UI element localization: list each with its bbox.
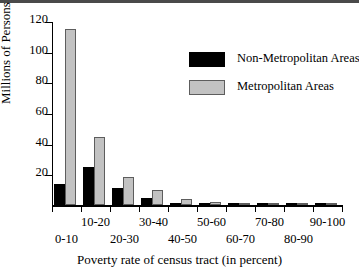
bar	[326, 203, 337, 205]
x-axis-tick-mark	[197, 205, 198, 212]
bar-group	[139, 21, 168, 205]
x-axis-tick-mark	[255, 205, 256, 212]
y-axis-tick-label: 40	[36, 136, 49, 149]
y-axis-tick-label: 60	[36, 105, 49, 118]
bar-group	[52, 21, 81, 205]
bar	[152, 190, 163, 205]
legend-swatch-metro	[189, 80, 225, 95]
x-axis-title: Poverty rate of census tract (in percent…	[0, 252, 359, 268]
legend-label: Non-Metropolitan Areas	[237, 51, 359, 66]
bar-group	[226, 21, 255, 205]
x-axis-tick-label: 40-50	[157, 233, 209, 246]
x-axis-tick-mark	[110, 205, 111, 212]
y-axis-tick-label: 20	[36, 166, 49, 179]
x-axis-tick-mark	[313, 205, 314, 212]
x-axis-tick-mark	[284, 205, 285, 212]
x-axis-tick-mark	[139, 205, 140, 212]
bar	[83, 167, 94, 205]
bar	[141, 198, 152, 205]
x-axis-tick-label: 30-40	[128, 216, 180, 229]
y-axis-tick-label: 80	[36, 74, 49, 87]
top-border-rule	[0, 0, 359, 3]
bar	[210, 202, 221, 205]
bar	[170, 203, 181, 205]
bar	[199, 203, 210, 205]
plot-area: 20406080100120	[52, 22, 342, 206]
bar-group	[313, 21, 342, 205]
x-axis-tick-label: 60-70	[215, 233, 267, 246]
x-axis-tick-label: 50-60	[186, 216, 238, 229]
bar	[54, 184, 65, 205]
x-axis-tick-label: 20-30	[99, 233, 151, 246]
x-axis-tick-mark	[342, 205, 343, 212]
bar	[181, 199, 192, 205]
bar-group	[168, 21, 197, 205]
x-axis-tick-label: 90-100	[302, 216, 354, 229]
bar	[239, 203, 250, 205]
x-axis-tick-label: 0-10	[41, 233, 93, 246]
bar-group	[255, 21, 284, 205]
legend-label: Metropolitan Areas	[237, 79, 334, 94]
x-axis-tick-label: 80-90	[273, 233, 325, 246]
x-axis-tick-mark	[81, 205, 82, 212]
y-axis-tick-label: 120	[29, 13, 48, 26]
bar-group	[110, 21, 139, 205]
x-axis-tick-mark	[52, 205, 53, 212]
bar-group	[197, 21, 226, 205]
x-axis-tick-mark	[168, 205, 169, 212]
bar	[297, 203, 308, 205]
bar	[228, 203, 239, 205]
x-axis-tick-mark	[226, 205, 227, 212]
x-axis-tick-label: 70-80	[244, 216, 296, 229]
bar	[65, 29, 76, 205]
legend-swatch-nonmetro	[189, 52, 225, 67]
bar	[286, 203, 297, 205]
bar	[268, 203, 279, 205]
y-axis-tick-label: 100	[29, 44, 48, 57]
y-axis-title: Millions of Persons	[0, 2, 14, 104]
bar-group	[81, 21, 110, 205]
bar	[112, 188, 123, 205]
bar	[257, 203, 268, 205]
bar	[123, 177, 134, 205]
bar-group	[284, 21, 313, 205]
bar	[94, 137, 105, 205]
x-axis-tick-label: 10-20	[70, 216, 122, 229]
chart-figure: Millions of Persons 20406080100120 0-101…	[0, 0, 359, 276]
bar	[315, 203, 326, 205]
